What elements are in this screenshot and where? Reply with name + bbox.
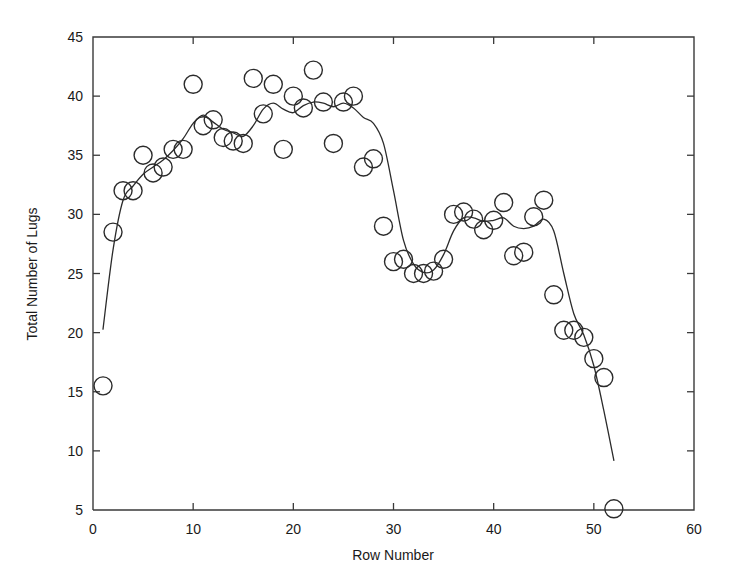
data-point-marker [304, 61, 322, 79]
data-point-marker [535, 191, 553, 209]
data-point-marker [475, 221, 493, 239]
data-point-marker [204, 111, 222, 129]
y-tick-label: 30 [67, 206, 83, 222]
data-point-marker [605, 500, 623, 518]
x-tick-label: 10 [185, 521, 201, 537]
data-point-marker [114, 182, 132, 200]
data-point-marker [595, 369, 613, 387]
y-tick-label: 5 [75, 502, 83, 518]
data-point-marker [164, 140, 182, 158]
y-tick-label: 10 [67, 443, 83, 459]
data-point-marker [505, 247, 523, 265]
data-point-marker [174, 140, 192, 158]
data-point-marker [565, 321, 583, 339]
data-point-marker [214, 129, 232, 147]
data-point-marker [294, 99, 312, 117]
data-point-marker [184, 75, 202, 93]
data-point-marker [545, 286, 563, 304]
x-tick-label: 60 [686, 521, 702, 537]
y-tick-label: 45 [67, 29, 83, 45]
data-point-marker [555, 321, 573, 339]
data-point-marker [344, 87, 362, 105]
x-axis-ticks [193, 37, 594, 510]
data-point-marker [525, 208, 543, 226]
y-tick-label: 25 [67, 266, 83, 282]
x-tick-label: 0 [89, 521, 97, 537]
y-axis-ticks [93, 96, 694, 451]
x-tick-label: 20 [286, 521, 302, 537]
y-tick-label: 40 [67, 88, 83, 104]
x-axis-tick-labels: 0102030405060 [89, 521, 702, 537]
data-point-marker [194, 117, 212, 135]
scatter-markers [94, 61, 623, 518]
data-point-marker [495, 194, 513, 212]
data-point-marker [405, 265, 423, 283]
y-tick-label: 15 [67, 384, 83, 400]
data-point-marker [374, 217, 392, 235]
y-tick-label: 20 [67, 325, 83, 341]
data-point-marker [134, 146, 152, 164]
data-point-marker [254, 105, 272, 123]
y-axis-tick-labels: 51015202530354045 [67, 29, 83, 518]
data-point-marker [94, 377, 112, 395]
data-point-marker [575, 328, 593, 346]
chart-figure: 51015202530354045 0102030405060 Row Numb… [0, 0, 737, 585]
scatter-plot-svg: 51015202530354045 0102030405060 Row Numb… [0, 0, 737, 585]
y-axis-title: Total Number of Lugs [24, 207, 40, 340]
data-point-marker [234, 134, 252, 152]
data-point-marker [435, 250, 453, 268]
data-point-marker [425, 262, 443, 280]
data-point-marker [274, 140, 292, 158]
data-point-marker [515, 243, 533, 261]
data-point-marker [244, 69, 262, 87]
data-point-marker [264, 75, 282, 93]
data-point-marker [104, 223, 122, 241]
data-point-marker [284, 87, 302, 105]
x-axis-title: Row Number [352, 547, 434, 563]
data-point-marker [334, 93, 352, 111]
plot-frame [93, 37, 694, 510]
data-point-marker [124, 182, 142, 200]
data-point-marker [465, 210, 483, 228]
data-point-marker [324, 134, 342, 152]
x-tick-label: 40 [486, 521, 502, 537]
y-tick-label: 35 [67, 147, 83, 163]
x-tick-label: 30 [386, 521, 402, 537]
x-tick-label: 50 [586, 521, 602, 537]
